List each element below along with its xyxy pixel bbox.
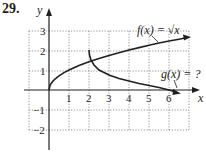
y-tick-3: 3 — [40, 25, 46, 37]
y-tick-1: 1 — [40, 65, 46, 77]
x-tick-4: 4 — [126, 92, 132, 104]
x-tick-3: 3 — [106, 92, 112, 104]
y-tick-neg2: −2 — [33, 124, 45, 136]
f-label: f(x) = √x — [137, 23, 180, 37]
g-label: g(x) = ? — [161, 67, 200, 81]
x-tick-5: 5 — [146, 92, 152, 104]
x-tick-1: 1 — [66, 92, 72, 104]
x-tick-6: 6 — [166, 92, 172, 104]
f-arrowhead — [183, 35, 191, 41]
x-tick-2: 2 — [86, 92, 92, 104]
y-axis-label: y — [36, 3, 43, 17]
y-tick-2: 2 — [40, 45, 46, 57]
g-label-leader — [174, 80, 177, 88]
f-curve — [49, 38, 186, 90]
y-tick-neg1: −1 — [33, 104, 45, 116]
x-axis-label: x — [197, 91, 204, 105]
graph: x y 1 2 3 4 5 6 3 2 1 −1 −2 f(x) = √x g(… — [0, 0, 206, 152]
